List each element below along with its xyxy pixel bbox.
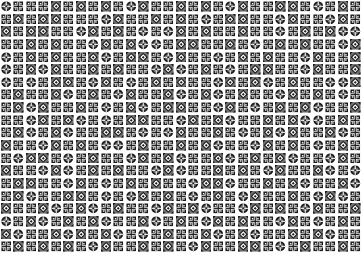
lattice-tile: [12, 215, 24, 228]
lattice-tile: [75, 63, 87, 76]
lattice-tile: [200, 190, 212, 203]
diamond-tile: [237, 0, 249, 13]
lattice-tile: [212, 38, 224, 51]
lattice-tile: [312, 152, 324, 165]
lattice-tile: [337, 228, 349, 241]
diamond-tile: [25, 25, 37, 38]
circle-cross-tile: [162, 126, 174, 139]
circle-cross-tile: [337, 126, 349, 139]
lattice-tile: [100, 25, 112, 38]
diamond-tile: [237, 88, 249, 101]
lattice-tile: [249, 13, 261, 26]
lattice-tile: [150, 190, 162, 203]
lattice-tile: [12, 63, 24, 76]
lattice-tile: [187, 13, 199, 26]
lattice-tile: [299, 139, 311, 152]
lattice-tile: [337, 51, 349, 64]
lattice-tile: [299, 88, 311, 101]
diamond-tile: [187, 38, 199, 51]
lattice-tile: [299, 215, 311, 228]
lattice-tile: [324, 101, 336, 114]
diamond-tile: [50, 126, 62, 139]
lattice-tile: [224, 240, 236, 253]
diamond-tile: [249, 190, 261, 203]
lattice-tile: [137, 88, 149, 101]
diamond-tile: [75, 139, 87, 152]
diamond-tile: [274, 202, 286, 215]
diamond-tile: [200, 63, 212, 76]
circle-cross-tile: [150, 63, 162, 76]
circle-cross-tile: [287, 152, 299, 165]
lattice-tile: [150, 228, 162, 241]
diamond-tile: [212, 177, 224, 190]
circle-cross-tile: [112, 139, 124, 152]
lattice-tile: [187, 152, 199, 165]
lattice-tile: [337, 202, 349, 215]
circle-cross-tile: [274, 215, 286, 228]
lattice-tile: [50, 215, 62, 228]
diamond-tile: [87, 164, 99, 177]
circle-cross-tile: [87, 202, 99, 215]
circle-cross-tile: [137, 228, 149, 241]
lattice-tile: [12, 38, 24, 51]
diamond-tile: [312, 63, 324, 76]
diamond-tile: [287, 13, 299, 26]
diamond-tile: [12, 13, 24, 26]
circle-cross-tile: [25, 190, 37, 203]
diamond-tile: [212, 126, 224, 139]
lattice-tile: [12, 76, 24, 89]
diamond-tile: [150, 13, 162, 26]
diamond-tile: [262, 114, 274, 127]
lattice-tile: [187, 63, 199, 76]
lattice-tile: [62, 202, 74, 215]
diamond-tile: [175, 25, 187, 38]
lattice-tile: [150, 0, 162, 13]
circle-cross-tile: [100, 215, 112, 228]
lattice-tile: [175, 202, 187, 215]
diamond-tile: [249, 63, 261, 76]
circle-cross-tile: [212, 76, 224, 89]
lattice-tile: [324, 202, 336, 215]
diamond-tile: [62, 215, 74, 228]
lattice-tile: [125, 25, 137, 38]
lattice-tile: [287, 25, 299, 38]
diamond-tile: [274, 164, 286, 177]
lattice-tile: [349, 13, 361, 26]
lattice-tile: [175, 190, 187, 203]
diamond-tile: [249, 202, 261, 215]
circle-cross-tile: [187, 177, 199, 190]
diamond-tile: [137, 51, 149, 64]
circle-cross-tile: [274, 240, 286, 253]
lattice-tile: [299, 126, 311, 139]
circle-cross-tile: [150, 215, 162, 228]
circle-cross-tile: [212, 88, 224, 101]
diamond-tile: [100, 240, 112, 253]
lattice-tile: [187, 164, 199, 177]
circle-cross-tile: [224, 114, 236, 127]
circle-cross-tile: [262, 76, 274, 89]
circle-cross-tile: [150, 164, 162, 177]
lattice-tile: [187, 88, 199, 101]
lattice-tile: [25, 202, 37, 215]
diamond-tile: [0, 25, 12, 38]
diamond-tile: [237, 51, 249, 64]
lattice-tile: [299, 164, 311, 177]
diamond-tile: [200, 88, 212, 101]
circle-cross-tile: [349, 164, 361, 177]
lattice-tile: [37, 177, 49, 190]
lattice-tile: [87, 0, 99, 13]
diamond-tile: [200, 139, 212, 152]
lattice-tile: [87, 101, 99, 114]
circle-cross-tile: [137, 101, 149, 114]
lattice-tile: [299, 13, 311, 26]
circle-cross-tile: [162, 51, 174, 64]
circle-cross-tile: [212, 101, 224, 114]
lattice-tile: [262, 190, 274, 203]
circle-cross-tile: [162, 25, 174, 38]
lattice-tile: [137, 76, 149, 89]
lattice-tile: [274, 139, 286, 152]
lattice-tile: [262, 152, 274, 165]
circle-cross-tile: [337, 38, 349, 51]
circle-cross-tile: [299, 202, 311, 215]
lattice-tile: [262, 88, 274, 101]
